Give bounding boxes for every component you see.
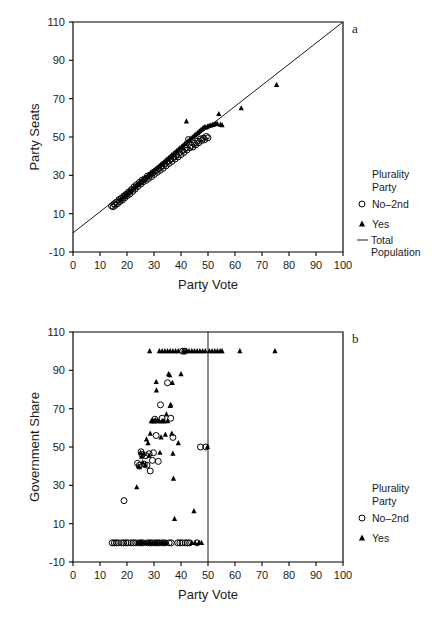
x-tick-label: 10 bbox=[94, 259, 106, 271]
x-tick-label: 90 bbox=[310, 259, 322, 271]
data-point-triangle bbox=[191, 508, 196, 513]
x-tick-label: 60 bbox=[229, 569, 241, 581]
data-point-circle bbox=[153, 433, 159, 439]
legend-title-line1: Plurality bbox=[372, 168, 410, 180]
y-tick-label: 70 bbox=[53, 93, 65, 105]
y-tick-label: 50 bbox=[53, 441, 65, 453]
y-tick-label: -10 bbox=[49, 246, 65, 258]
data-point-triangle bbox=[172, 516, 177, 521]
panel-b-plot: -1010305070901100102030405060708090100Pa… bbox=[0, 310, 437, 618]
data-point-triangle bbox=[157, 450, 162, 455]
y-tick-label: -10 bbox=[49, 556, 65, 568]
x-tick-label: 50 bbox=[202, 569, 214, 581]
data-point-triangle bbox=[216, 111, 221, 116]
x-axis-title: Party Vote bbox=[178, 587, 238, 602]
x-tick-label: 40 bbox=[175, 569, 187, 581]
y-tick-label: 30 bbox=[53, 169, 65, 181]
legend-title-line1: Plurality bbox=[372, 482, 410, 494]
data-point-triangle bbox=[178, 371, 183, 376]
data-point-triangle bbox=[237, 348, 242, 353]
legend-label-no-2nd[interactable]: No–2nd bbox=[372, 198, 409, 210]
data-point-triangle bbox=[170, 451, 175, 456]
series-yes bbox=[134, 348, 277, 545]
x-tick-label: 80 bbox=[283, 259, 295, 271]
data-point-triangle bbox=[164, 411, 169, 416]
data-point-triangle bbox=[163, 431, 168, 436]
data-point-triangle bbox=[168, 402, 173, 407]
data-point-triangle bbox=[140, 459, 145, 464]
data-point-circle bbox=[157, 402, 163, 408]
legend-label-no-2nd[interactable]: No–2nd bbox=[372, 512, 409, 524]
x-tick-label: 60 bbox=[229, 259, 241, 271]
x-tick-label: 90 bbox=[310, 569, 322, 581]
data-point-triangle bbox=[176, 440, 181, 445]
y-tick-label: 50 bbox=[53, 131, 65, 143]
x-tick-label: 30 bbox=[148, 259, 160, 271]
y-tick-label: 110 bbox=[47, 326, 65, 338]
y-tick-label: 30 bbox=[53, 479, 65, 491]
legend-marker-circle bbox=[359, 201, 365, 207]
y-tick-label: 10 bbox=[53, 208, 65, 220]
y-tick-label: 70 bbox=[53, 403, 65, 415]
x-tick-label: 40 bbox=[175, 259, 187, 271]
data-point-circle bbox=[149, 457, 155, 463]
legend-title-line2: Party bbox=[372, 495, 397, 507]
series-no-2nd bbox=[109, 348, 209, 546]
panel-a: -1010305070901100102030405060708090100Pa… bbox=[0, 0, 437, 310]
data-point-triangle bbox=[147, 348, 152, 353]
legend-label-total[interactable]: Total bbox=[371, 234, 393, 246]
y-tick-label: 90 bbox=[53, 364, 65, 376]
data-point-triangle bbox=[272, 348, 277, 353]
legend-title-line2: Party bbox=[372, 181, 397, 193]
panel-b: -1010305070901100102030405060708090100Pa… bbox=[0, 310, 437, 618]
y-tick-label: 10 bbox=[53, 518, 65, 530]
data-point-triangle bbox=[239, 105, 244, 110]
data-point-circle bbox=[121, 498, 127, 504]
data-point-triangle bbox=[148, 430, 153, 435]
data-point-triangle bbox=[169, 430, 174, 435]
x-tick-label: 10 bbox=[94, 569, 106, 581]
legend-label-yes[interactable]: Yes bbox=[372, 532, 389, 544]
plot-frame bbox=[73, 22, 343, 252]
legend-label-yes[interactable]: Yes bbox=[372, 218, 389, 230]
data-point-circle bbox=[165, 380, 171, 386]
panel-a-plot: -1010305070901100102030405060708090100Pa… bbox=[0, 0, 437, 310]
x-tick-label: 0 bbox=[70, 569, 76, 581]
x-tick-label: 70 bbox=[256, 569, 268, 581]
x-tick-label: 20 bbox=[121, 569, 133, 581]
data-point-triangle bbox=[154, 379, 159, 384]
panel-letter-b: b bbox=[352, 331, 359, 346]
data-point-circle bbox=[150, 450, 156, 456]
legend-marker-triangle bbox=[359, 535, 365, 541]
data-point-circle bbox=[147, 468, 153, 474]
x-tick-label: 100 bbox=[334, 569, 352, 581]
x-tick-label: 30 bbox=[148, 569, 160, 581]
x-tick-label: 0 bbox=[70, 259, 76, 271]
data-point-triangle bbox=[154, 387, 159, 392]
x-tick-label: 100 bbox=[334, 259, 352, 271]
y-axis-title: Government Share bbox=[27, 392, 42, 502]
x-tick-label: 80 bbox=[283, 569, 295, 581]
data-point-triangle bbox=[274, 82, 279, 87]
y-tick-label: 90 bbox=[53, 54, 65, 66]
x-tick-label: 70 bbox=[256, 259, 268, 271]
x-tick-label: 50 bbox=[202, 259, 214, 271]
figure-container: -1010305070901100102030405060708090100Pa… bbox=[0, 0, 437, 618]
x-tick-label: 20 bbox=[121, 259, 133, 271]
y-axis-title: Party Seats bbox=[27, 103, 42, 171]
legend-marker-circle bbox=[359, 515, 365, 521]
legend-marker-triangle bbox=[359, 221, 365, 227]
y-tick-label: 110 bbox=[47, 16, 65, 28]
x-axis-title: Party Vote bbox=[178, 277, 238, 292]
data-point-triangle bbox=[184, 118, 189, 123]
data-point-circle bbox=[155, 458, 161, 464]
data-point-triangle bbox=[134, 484, 139, 489]
data-point-triangle bbox=[171, 476, 176, 481]
panel-letter-a: a bbox=[352, 21, 358, 36]
legend-label-population[interactable]: Population bbox=[371, 246, 421, 258]
